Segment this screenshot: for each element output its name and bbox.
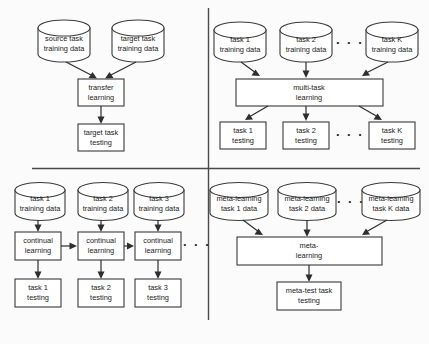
cylinder-ml-task-2-data: meta-learning task 2 data (278, 183, 336, 221)
label-line2: learning (296, 251, 322, 260)
box-continual-learning-1: continual learning (15, 232, 61, 260)
label-line2: training data (20, 204, 62, 213)
arrow-cl-data3-to-process3 (155, 220, 162, 232)
label-line1: continual (143, 236, 173, 245)
arrow-cl-data2-to-process2 (98, 220, 105, 232)
label-line1: meta- (300, 241, 319, 250)
label-line2: testing (295, 136, 317, 145)
label-line1: meta-learning (284, 194, 329, 203)
arrow-mtl-process-to-task2-testing (303, 106, 310, 121)
arrow-cl-process3-to-testing3 (155, 260, 162, 279)
label-line2: training data (139, 204, 181, 213)
label-line1: meta-learning (368, 194, 413, 203)
box-cl-task-2-testing: task 2 testing (78, 279, 124, 307)
arrow-mtl-process-to-task1-testing (245, 106, 268, 120)
arrow-mtl-task2-to-process (303, 62, 310, 78)
arrow-mtl-taskk-to-process (362, 62, 388, 76)
label-line2: training data (220, 45, 262, 54)
label-line2: training data (372, 45, 414, 54)
diagram-canvas: source task training data target task tr… (0, 0, 429, 344)
label-line2: training data (118, 44, 160, 53)
arrow-cl-data1-to-process1 (35, 220, 42, 232)
label-line1: task 2 (93, 194, 113, 203)
ellipsis-mtl-outputs: · · · (336, 127, 364, 142)
box-mtl-task-1-testing: task 1 testing (220, 122, 266, 149)
label-line1: task K (382, 126, 403, 135)
label-line1: task 1 (233, 126, 253, 135)
cylinder-ml-task-1-data: meta-learning task 1 data (210, 183, 268, 221)
arrow-mtl-task1-to-process (241, 62, 260, 76)
box-mtl-task-2-testing: task 2 testing (283, 122, 329, 149)
label-line1: task 3 (148, 283, 168, 292)
arrow-source-to-transfer (66, 62, 97, 79)
label-line2: task 1 data (221, 204, 258, 213)
label-line1: task 1 (230, 35, 250, 44)
cylinder-mtl-task-2-training-data: task 2 training data (280, 22, 332, 62)
arrow-ml-process-to-testing (306, 265, 313, 282)
arrow-cl-process2-to-process3 (124, 243, 134, 250)
learning-paradigms-diagram: source task training data target task tr… (0, 0, 429, 344)
label-line1: target task (84, 128, 119, 137)
cylinder-cl-task-1-training-data: task 1 training data (15, 183, 65, 221)
label-line2: learning (296, 93, 322, 102)
ellipsis-ml-sources: · · · (337, 194, 365, 209)
label-line1: task 2 (296, 35, 316, 44)
quadrant-continual-learning: task 1 training data task 2 training dat… (15, 183, 211, 308)
ellipsis-cl-processes: · · · (183, 237, 211, 252)
arrow-cl-process1-to-process2 (61, 243, 77, 250)
cylinder-cl-task-3-training-data: task 3 training data (134, 183, 184, 221)
box-continual-learning-2: continual learning (78, 232, 124, 260)
label-line2: task K data (373, 204, 411, 213)
ellipsis-mtl-sources: · · · (336, 35, 364, 50)
label-line1: task 3 (149, 194, 169, 203)
label-line2: task 2 data (289, 204, 326, 213)
label-line1: source task (45, 34, 83, 43)
arrow-ml-data2-to-process (304, 220, 311, 237)
label-line1: transfer (88, 83, 114, 92)
cylinder-cl-task-2-training-data: task 2 training data (78, 183, 128, 221)
arrow-transfer-to-testing (98, 106, 105, 124)
arrow-target-to-transfer (105, 62, 136, 79)
box-meta-learning: meta- learning (237, 237, 382, 265)
box-continual-learning-3: continual learning (135, 232, 181, 260)
label-line2: testing (90, 293, 112, 302)
label-line1: target task (121, 34, 156, 43)
label-line2: testing (147, 293, 169, 302)
label-line2: testing (27, 293, 49, 302)
arrow-cl-process2-to-testing2 (98, 260, 105, 279)
label-line1: continual (23, 236, 53, 245)
box-meta-test-task-testing: meta-test task testing (277, 282, 341, 310)
label-line1: meta-learning (216, 194, 261, 203)
cylinder-target-task-training-data: target task training data (112, 20, 164, 62)
arrow-ml-datak-to-process (362, 220, 387, 235)
box-mtl-task-k-testing: task K testing (369, 122, 415, 149)
quadrant-multi-task-learning: task 1 training data task 2 training dat… (214, 22, 418, 149)
label-line1: task 1 (28, 283, 48, 292)
box-cl-task-3-testing: task 3 testing (135, 279, 181, 307)
label-line1: meta-test task (286, 286, 333, 295)
box-cl-task-1-testing: task 1 testing (15, 279, 61, 307)
box-target-task-testing: target task testing (78, 124, 124, 151)
arrow-mtl-process-to-taskk-testing (359, 106, 382, 120)
label-line1: multi-task (293, 83, 325, 92)
label-line2: training data (83, 204, 125, 213)
box-transfer-learning: transfer learning (78, 79, 124, 106)
label-line2: learning (25, 246, 51, 255)
label-line1: task 2 (296, 126, 316, 135)
label-line1: task 1 (30, 194, 50, 203)
label-line2: testing (232, 136, 254, 145)
label-line2: learning (88, 246, 114, 255)
cylinder-ml-task-k-data: meta-learning task K data (362, 183, 420, 221)
quadrant-transfer-learning: source task training data target task tr… (38, 20, 164, 151)
label-line2: testing (90, 138, 112, 147)
box-multi-task-learning: multi-task learning (236, 79, 383, 106)
label-line2: training data (44, 44, 86, 53)
label-line1: task 2 (91, 283, 111, 292)
label-line1: continual (86, 236, 116, 245)
label-line2: learning (88, 93, 114, 102)
cylinder-mtl-task-k-training-data: task K training data (366, 22, 418, 62)
cylinder-source-task-training-data: source task training data (38, 20, 90, 62)
label-line1: task K (382, 35, 403, 44)
label-line2: learning (145, 246, 171, 255)
label-line2: testing (381, 136, 403, 145)
